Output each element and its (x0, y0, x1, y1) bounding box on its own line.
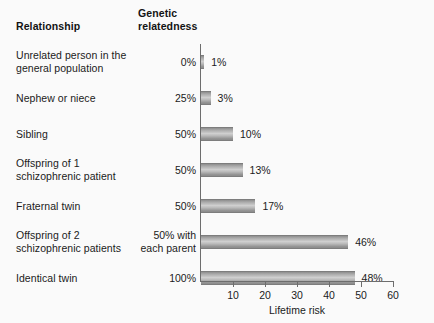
x-axis-tick (297, 282, 298, 287)
x-axis-tick-label: 20 (250, 289, 280, 301)
chart-figure: Relationship Genetic relatedness Unrelat… (0, 0, 434, 323)
x-axis-tick-label: 40 (314, 289, 344, 301)
column-header-relationship: Relationship (16, 20, 80, 33)
row-genetic-relatedness-line1: 50% (118, 128, 196, 141)
bar (201, 91, 211, 105)
bar-value-label: 48% (355, 272, 383, 284)
x-axis-tick (233, 282, 234, 287)
bar-track: 10% (201, 116, 393, 152)
bar-track: 46% (201, 224, 393, 260)
row-genetic-relatedness-value: 50% witheach parent (118, 229, 200, 255)
bar-track: 1% (201, 44, 393, 80)
x-axis-tick-label: 30 (282, 289, 312, 301)
x-axis-tick (329, 282, 330, 287)
bar-track: 3% (201, 80, 393, 116)
bar-track: 17% (201, 188, 393, 224)
row-genetic-relatedness-line1: 25% (118, 92, 196, 105)
x-axis-tick-label: 60 (378, 289, 408, 301)
row-genetic-relatedness-value: 50% (118, 200, 200, 213)
bar-track: 13% (201, 152, 393, 188)
bar-value-label: 17% (255, 200, 283, 212)
row-genetic-relatedness-line1: 50% (118, 200, 196, 213)
plot-area: 1%3%10%13%17%46%48% (201, 44, 393, 282)
y-axis-line (200, 44, 201, 282)
row-genetic-relatedness-value: 50% (118, 164, 200, 177)
bar (201, 127, 233, 141)
row-genetic-relatedness-line1: 0% (118, 56, 196, 69)
column-header-genetic-relatedness: Genetic relatedness (138, 7, 208, 32)
bar-value-label: 46% (348, 236, 376, 248)
column-header-line2: relatedness (138, 20, 208, 33)
x-axis-tick (393, 282, 394, 287)
row-genetic-relatedness-line1: 100% (118, 272, 196, 285)
bar-value-label: 1% (204, 56, 226, 68)
row-genetic-relatedness-value: 50% (118, 128, 200, 141)
bar (201, 271, 355, 285)
row-genetic-relatedness-line2: each parent (118, 242, 196, 255)
x-axis-tick (265, 282, 266, 287)
column-header-line1: Genetic (138, 7, 208, 20)
bar (201, 199, 255, 213)
row-genetic-relatedness-line1: 50% (118, 164, 196, 177)
bar-value-label: 10% (233, 128, 261, 140)
row-genetic-relatedness-line1: 50% with (118, 229, 196, 242)
row-genetic-relatedness-value: 25% (118, 92, 200, 105)
bar-value-label: 13% (243, 164, 271, 176)
x-axis-tick-label: 50 (346, 289, 376, 301)
bar-value-label: 3% (211, 92, 233, 104)
x-axis-label: Lifetime risk (201, 304, 393, 316)
row-genetic-relatedness-value: 100% (118, 272, 200, 285)
x-axis-tick-label: 10 (218, 289, 248, 301)
bar (201, 235, 348, 249)
x-axis-tick (361, 282, 362, 287)
row-genetic-relatedness-value: 0% (118, 56, 200, 69)
bar (201, 163, 243, 177)
